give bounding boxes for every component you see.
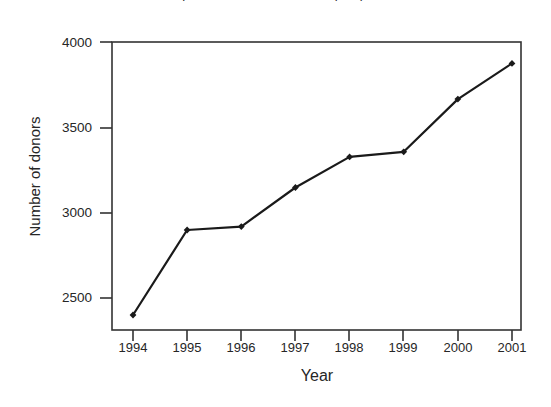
donors-line-series (133, 63, 512, 315)
y-axis-ticks (100, 42, 112, 298)
plot-area (0, 0, 551, 407)
plot-frame (112, 42, 521, 330)
x-axis-ticks (133, 330, 512, 341)
donors-data-markers (130, 60, 516, 318)
chart-figure: Figure 1. Number of donors per year Numb… (0, 0, 551, 407)
